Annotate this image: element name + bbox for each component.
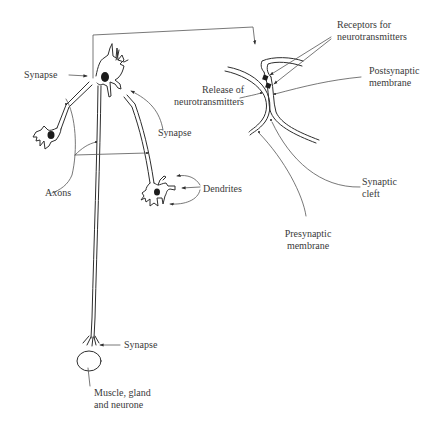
label-target: Muscle, gland and neurone [94,387,151,411]
label-postsynaptic-line2: membrane [369,77,420,89]
right-neuron [141,176,175,206]
synapse-pointer-arrows [69,75,163,345]
label-synapse-top: Synapse [24,69,57,81]
synapse-closeup-pointers [240,37,361,216]
label-synapse-bottom: Synapse [124,339,157,351]
left-axon [57,82,92,129]
label-postsynaptic-line1: Postsynaptic [369,65,420,77]
label-presynaptic: Presynaptic membrane [278,228,338,252]
label-target-line1: Muscle, gland [94,387,151,399]
label-presynaptic-line1: Presynaptic [278,228,338,240]
label-dendrites: Dendrites [203,183,242,195]
target-cell [77,351,101,386]
label-receptors: Receptors for neurotransmitters [337,19,407,43]
top-neuron [83,44,128,346]
label-release-line1: Release of [164,84,244,96]
label-postsynaptic: Postsynaptic membrane [369,65,420,89]
label-synaptic-cleft-line1: Synaptic [362,176,397,188]
label-presynaptic-line2: membrane [278,240,338,252]
label-synapse-middle: Synapse [158,127,191,139]
right-axon [124,95,154,183]
label-synaptic-cleft: Synaptic cleft [362,176,397,200]
label-release-line2: neurotransmitters [164,96,244,108]
label-target-line2: and neurone [94,399,151,411]
label-axons: Axons [45,187,71,199]
label-receptors-line2: neurotransmitters [337,31,407,43]
label-receptors-line1: Receptors for [337,19,407,31]
left-neuron [33,126,61,149]
label-release: Release of neurotransmitters [164,84,244,108]
label-synaptic-cleft-line2: cleft [362,188,397,200]
